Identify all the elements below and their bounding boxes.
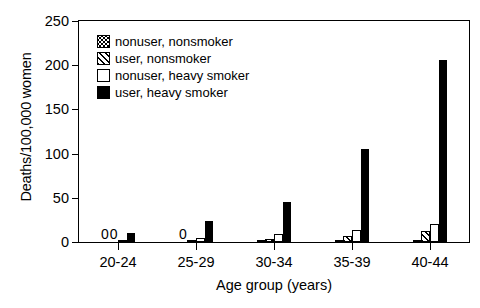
legend-swatch-nonuser-heavy-smoker [97, 69, 110, 82]
y-axis-tick [72, 65, 79, 66]
y-axis-tick [72, 198, 79, 199]
bar-25-29-open-white [196, 238, 205, 242]
y-axis-tick [72, 21, 79, 22]
bar-35-39-solid-black [361, 149, 370, 242]
legend-label: nonuser, heavy smoker [115, 69, 249, 82]
bar-25-29-diagonal-hatch [187, 240, 196, 242]
y-axis-tick-label: 200 [23, 57, 69, 73]
bar-35-39-open-white [352, 230, 361, 242]
legend-label: user, nonsmoker [115, 52, 211, 65]
bar-40-44-diagonal-hatch [421, 231, 430, 242]
bar-chart: Deaths/100,000 women 000 nonuser, nonsmo… [0, 0, 480, 308]
bar-30-34-checkered-dots [257, 240, 266, 242]
y-axis-tick-label: 250 [23, 13, 69, 29]
bar-value-label: 0 [101, 227, 109, 242]
x-axis-tick [430, 242, 431, 250]
bar-cluster-30-34 [257, 21, 292, 242]
legend-swatch-user-heavy-smoker [97, 86, 110, 99]
bar-25-29-solid-black [205, 221, 214, 242]
bar-40-44-checkered-dots [413, 240, 422, 242]
y-axis-tick-label: 150 [23, 101, 69, 117]
legend-item-user-heavy-smoker: user, heavy smoker [97, 85, 249, 101]
x-axis-tick [118, 242, 119, 250]
bar-20-24-solid-black [127, 233, 136, 242]
legend-item-nonuser-nonsmoker: nonuser, nonsmoker [97, 34, 249, 50]
bar-value-label: 0 [179, 227, 187, 242]
bar-40-44-solid-black [439, 60, 448, 242]
x-axis-tick [352, 242, 353, 250]
x-axis-tick [274, 242, 275, 250]
plot-area: 000 nonuser, nonsmoker user, nonsmoker n… [78, 20, 470, 243]
legend: nonuser, nonsmoker user, nonsmoker nonus… [97, 34, 249, 102]
y-axis-tick-label: 50 [23, 190, 69, 206]
y-axis-title: Deaths/100,000 women [18, 7, 34, 247]
x-axis-tick-label: 35-39 [333, 254, 370, 270]
legend-item-nonuser-heavy-smoker: nonuser, heavy smoker [97, 68, 249, 84]
legend-label: user, heavy smoker [115, 86, 228, 99]
x-axis-tick-label: 40-44 [411, 254, 448, 270]
x-axis-tick-label: 30-34 [255, 254, 292, 270]
bar-30-34-diagonal-hatch [265, 239, 274, 242]
bar-cluster-40-44 [413, 21, 448, 242]
legend-label: nonuser, nonsmoker [115, 35, 233, 48]
bar-30-34-open-white [274, 234, 283, 242]
y-axis-tick-label: 100 [23, 146, 69, 162]
bar-cluster-35-39 [335, 21, 370, 242]
x-axis-tick [196, 242, 197, 250]
bar-value-label: 0 [110, 227, 118, 242]
y-axis-tick [72, 242, 79, 243]
legend-item-user-nonsmoker: user, nonsmoker [97, 51, 249, 67]
bar-30-34-solid-black [283, 202, 292, 242]
legend-swatch-nonuser-nonsmoker [97, 35, 110, 48]
x-axis-tick-label: 25-29 [177, 254, 214, 270]
y-axis-tick [72, 154, 79, 155]
y-axis-tick-label: 0 [23, 234, 69, 250]
bar-35-39-checkered-dots [335, 240, 344, 242]
bar-40-44-open-white [430, 224, 439, 242]
y-axis-tick [72, 109, 79, 110]
bar-35-39-diagonal-hatch [343, 236, 352, 242]
x-axis-tick-label: 20-24 [99, 254, 136, 270]
legend-swatch-user-nonsmoker [97, 52, 110, 65]
x-axis-title: Age group (years) [79, 277, 469, 293]
bar-20-24-open-white [118, 240, 127, 242]
